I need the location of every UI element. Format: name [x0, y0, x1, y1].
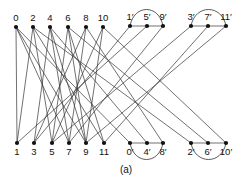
node-label: 4	[47, 12, 52, 23]
edge-prime-odd	[17, 26, 147, 143]
node-label: 6′	[204, 146, 211, 157]
node-top-left	[66, 25, 70, 29]
node-label: 9	[83, 146, 88, 157]
node-label: 1	[14, 146, 19, 157]
node-top-right	[189, 24, 193, 28]
edge-even-odd	[16, 27, 17, 143]
node-bottom-left	[67, 141, 71, 145]
node-label: 2	[30, 12, 35, 23]
node-top-left	[31, 25, 35, 29]
edge-even-odd	[16, 27, 86, 143]
node-bottom-left	[32, 141, 36, 145]
node-top-left	[48, 25, 52, 29]
node-label: 2′	[187, 146, 194, 157]
node-label: 8	[83, 12, 88, 23]
graph-diagram: 02468101′5′9′3′7′11′13579110′4′8′2′6′10′…	[0, 0, 252, 186]
node-bottom-right	[206, 141, 210, 145]
figure-caption: (a)	[120, 164, 132, 175]
node-bottom-left	[15, 141, 19, 145]
node-bottom-right	[189, 141, 193, 145]
node-label: 3′	[187, 11, 194, 22]
node-top-left	[14, 25, 18, 29]
node-label: 0	[13, 12, 18, 23]
node-label: 11	[99, 146, 109, 157]
node-label: 8′	[159, 146, 166, 157]
node-bottom-right	[224, 141, 228, 145]
node-bottom-left	[84, 141, 88, 145]
node-label: 5′	[143, 11, 150, 22]
node-label: 6	[65, 12, 70, 23]
edge-even-odd	[50, 27, 86, 143]
node-bottom-right	[128, 141, 132, 145]
node-label: 7′	[204, 11, 211, 22]
node-label: 1′	[126, 11, 133, 22]
node-label: 3	[31, 146, 36, 157]
node-top-right	[145, 24, 149, 28]
node-bottom-left	[50, 141, 54, 145]
node-label: 10	[98, 12, 109, 23]
node-bottom-right	[145, 141, 149, 145]
edge-prime-even	[68, 27, 208, 143]
node-bottom-left	[102, 141, 106, 145]
node-top-right	[128, 24, 132, 28]
node-label: 11′	[220, 11, 232, 22]
edge-prime-even	[103, 27, 226, 143]
node-label: 9′	[159, 11, 166, 22]
node-label: 10′	[220, 146, 233, 157]
edge-prime-odd	[86, 26, 226, 143]
edge-even-odd	[17, 27, 33, 143]
node-top-left	[101, 25, 105, 29]
node-label: 4′	[143, 146, 150, 157]
node-label: 7	[66, 146, 71, 157]
edge-prime-even	[33, 27, 191, 143]
node-top-right	[224, 24, 228, 28]
edge-prime-even	[86, 27, 163, 143]
node-label: 0′	[126, 146, 133, 157]
node-label: 5	[49, 146, 54, 157]
edge-even-odd	[33, 27, 104, 143]
node-bottom-right	[161, 141, 165, 145]
node-top-right	[206, 24, 210, 28]
node-top-right	[161, 24, 165, 28]
node-top-left	[84, 25, 88, 29]
